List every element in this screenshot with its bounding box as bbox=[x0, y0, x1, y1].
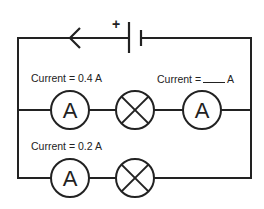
lamp-icon bbox=[116, 159, 154, 197]
current-label-upper-right: Current =A bbox=[157, 73, 234, 85]
svg-text:A: A bbox=[195, 98, 210, 123]
svg-text:A: A bbox=[63, 98, 78, 123]
battery-icon bbox=[129, 22, 141, 53]
lamp-icon bbox=[116, 91, 154, 129]
svg-text:A: A bbox=[63, 166, 78, 191]
battery-plus-sign: + bbox=[112, 16, 120, 32]
answer-blank[interactable] bbox=[203, 73, 225, 83]
ammeter-icon: A bbox=[51, 91, 89, 129]
current-label-unit: A bbox=[227, 73, 234, 85]
current-label-prefix: Current = bbox=[157, 73, 201, 85]
ammeter-icon: A bbox=[183, 91, 221, 129]
current-label-upper-left: Current = 0.4 A bbox=[31, 73, 102, 84]
current-label-lower: Current = 0.2 A bbox=[31, 141, 102, 152]
ammeter-icon: A bbox=[51, 159, 89, 197]
circuit-diagram: + A A A bbox=[0, 0, 264, 209]
